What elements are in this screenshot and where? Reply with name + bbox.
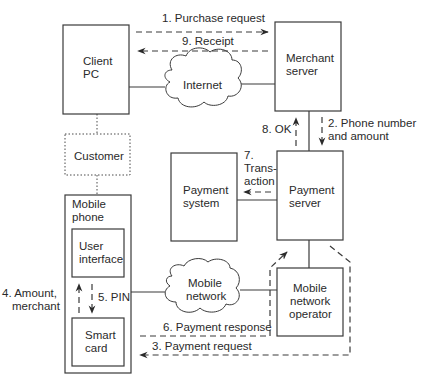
transaction-label-2: Trans- (244, 162, 277, 174)
mobile-phone-label: Mobile (72, 198, 106, 210)
mobile-phone-label-2: phone (72, 211, 104, 223)
amount-merchant-label: 4. Amount, (2, 287, 57, 299)
merchant-server-label-2: server (286, 65, 318, 77)
operator-label-3: operator (289, 308, 332, 320)
payment-system-label-2: system (183, 197, 219, 209)
merchant-server-label: Merchant (286, 52, 335, 64)
merchant-server-node: Merchant server (275, 22, 341, 111)
payment-response-label: 6. Payment response (163, 321, 272, 333)
mobile-network-label-2: network (186, 290, 227, 302)
payment-server-label-2: server (289, 197, 321, 209)
payment-system-label: Payment (183, 184, 229, 196)
payment-server-label: Payment (289, 184, 335, 196)
mobile-network-label: Mobile (188, 277, 222, 289)
payment-request-label: 3. Payment request (152, 340, 253, 352)
smart-card-label-2: card (85, 342, 107, 354)
client-pc-node: Client PC (63, 25, 129, 114)
amount-label: and amount (328, 130, 390, 142)
payment-server-node: Payment server (277, 151, 343, 240)
ok-label: 8. OK (262, 123, 292, 135)
operator-label: Mobile (293, 282, 327, 294)
payment-system-node: Payment system (171, 153, 237, 241)
receipt-label: 9. Receipt (182, 35, 235, 47)
transaction-label-3: action (244, 175, 275, 187)
pin-label: 5. PIN (98, 291, 130, 303)
smart-card-label: Smart (85, 329, 116, 341)
mobile-network-operator-node: Mobile network operator (277, 268, 343, 336)
internet-cloud: Internet (165, 48, 241, 107)
user-interface-label: User (79, 240, 103, 252)
payment-flow-diagram: Client PC Merchant server Internet Custo… (0, 0, 423, 384)
smart-card-node: Smart card (72, 318, 124, 366)
customer-node: Customer (65, 134, 130, 175)
internet-label: Internet (183, 79, 223, 91)
mobile-network-cloud: Mobile network (165, 259, 239, 313)
user-interface-node: User interface (72, 229, 124, 277)
user-interface-label-2: interface (79, 253, 123, 265)
transaction-label-1: 7. (244, 149, 254, 161)
client-pc-label: Client (83, 55, 113, 67)
customer-label: Customer (74, 150, 124, 162)
operator-label-2: network (290, 295, 331, 307)
phone-number-label: 2. Phone number (328, 117, 416, 129)
merchant-label: merchant (12, 300, 61, 312)
client-pc-label-2: PC (83, 68, 99, 80)
purchase-request-label: 1. Purchase request (162, 12, 266, 24)
